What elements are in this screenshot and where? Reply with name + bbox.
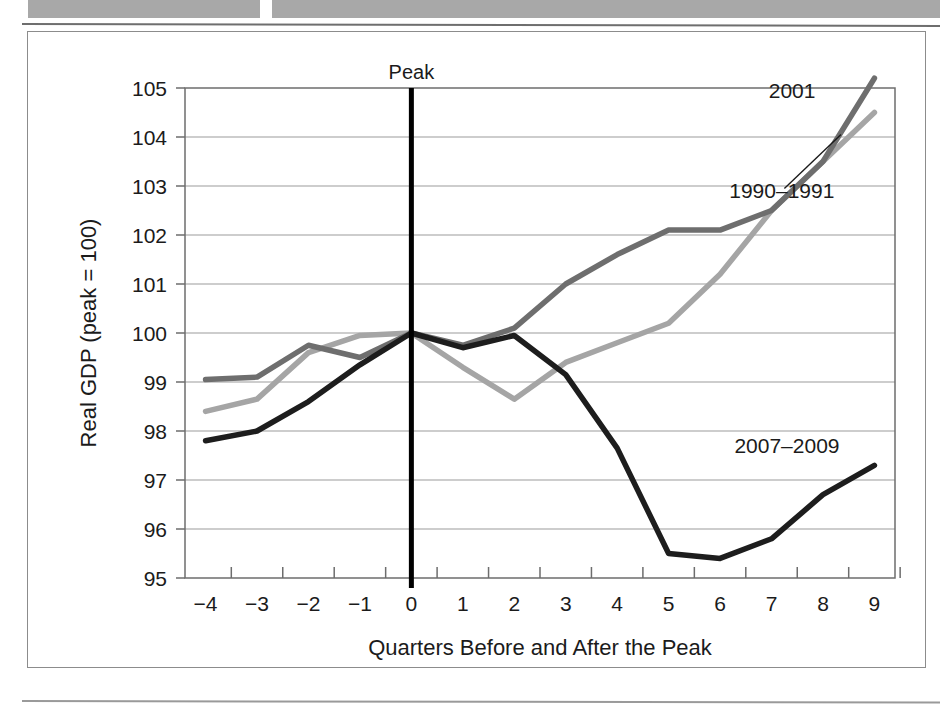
x-tick-label-8: 8 <box>817 592 829 615</box>
series-label-1990-1991: 1990–1991 <box>729 179 834 202</box>
x-tick-label--2: −2 <box>297 592 321 615</box>
x-tick-label-2: 2 <box>508 592 520 615</box>
x-tick-label-9: 9 <box>869 592 881 615</box>
series-label-2001: 2001 <box>769 79 816 102</box>
x-tick-label-0: 0 <box>406 592 418 615</box>
x-tick-label-5: 5 <box>663 592 675 615</box>
y-tick-label-95: 95 <box>144 567 167 590</box>
x-tick-label--1: −1 <box>348 592 372 615</box>
y-tick-label-96: 96 <box>144 518 167 541</box>
x-axis-tick-labels: −4−3−2−10123456789 <box>194 592 881 615</box>
y-tick-label-99: 99 <box>144 371 167 394</box>
x-tick-label--4: −4 <box>194 592 218 615</box>
series-line-2001 <box>206 78 875 379</box>
x-tick-label-6: 6 <box>714 592 726 615</box>
y-tick-label-101: 101 <box>132 273 167 296</box>
y-tick-label-100: 100 <box>132 322 167 345</box>
y-tick-label-105: 105 <box>132 77 167 100</box>
series-inline-labels: 1990–199120012007–2009 <box>729 79 839 457</box>
x-tick-label--3: −3 <box>245 592 269 615</box>
y-tick-label-98: 98 <box>144 420 167 443</box>
y-axis-title: Real GDP (peak = 100) <box>76 219 101 448</box>
x-tick-label-4: 4 <box>611 592 623 615</box>
series-label-2007-2009: 2007–2009 <box>734 434 839 457</box>
y-axis-tick-labels: 1051041031021011009998979695 <box>132 77 167 590</box>
x-tick-label-1: 1 <box>457 592 469 615</box>
y-axis-ticks <box>176 88 185 578</box>
x-tick-label-7: 7 <box>766 592 778 615</box>
y-tick-label-102: 102 <box>132 224 167 247</box>
y-tick-label-103: 103 <box>132 175 167 198</box>
data-series <box>206 78 875 558</box>
x-tick-label-3: 3 <box>560 592 572 615</box>
series-line-1990-1991 <box>206 113 875 412</box>
y-tick-label-97: 97 <box>144 469 167 492</box>
x-axis-ticks <box>231 567 900 578</box>
y-tick-label-104: 104 <box>132 126 167 149</box>
x-axis-title: Quarters Before and After the Peak <box>368 635 713 660</box>
gdp-recession-line-chart: 1051041031021011009998979695 −4−3−2−1012… <box>0 0 940 721</box>
peak-annotation-label: Peak <box>389 61 436 83</box>
